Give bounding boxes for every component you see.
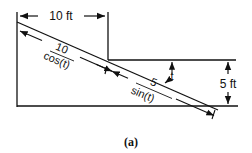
angle-label: t [170,70,173,82]
height-label: 5 ft [220,77,237,91]
figure-caption: (a) [124,135,138,149]
lower-segment-label: 5 sin(t) [129,75,172,104]
ladder-corner-diagram: 10 ft 10 cos(t) 5 sin(t) t 5 ft (a) [0,0,252,153]
width-label: 10 ft [49,9,73,23]
ladder-line [17,22,218,110]
lower-numerator: 5 [149,75,159,88]
upper-segment-label: 10 cos(t) [42,40,74,71]
